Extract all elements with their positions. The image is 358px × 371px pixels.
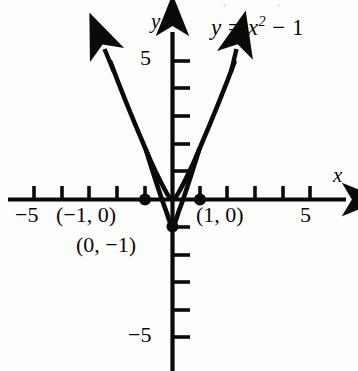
x-tick-label-neg5: −5 — [15, 204, 38, 226]
equation-equals: = — [228, 15, 241, 40]
x-tick-label-5: 5 — [300, 204, 311, 226]
right-branch-arrow — [231, 49, 237, 72]
y-axis-label: y — [151, 11, 160, 32]
equation-constant: 1 — [292, 15, 304, 40]
cropped-text-remnant: ' , ' , — [196, 0, 290, 9]
equation-exponent: 2 — [258, 13, 266, 29]
equation-minus: − — [272, 15, 285, 40]
equation-label: y = x2 − 1 — [211, 14, 304, 39]
point-label-1-0: (1, 0) — [196, 204, 244, 226]
point-label-neg1-0: (−1, 0) — [56, 204, 116, 226]
coordinate-plane — [0, 0, 358, 371]
equation-variable: x — [248, 15, 259, 40]
point-marker-neg1-0 — [139, 194, 151, 206]
y-tick-label-neg5: −5 — [128, 324, 151, 346]
point-marker-0-neg1 — [167, 221, 179, 233]
graph-figure: ' , ' , y x 5 −5 −5 5 (−1, 0) (1, 0) (0,… — [0, 0, 358, 371]
point-label-0-neg1: (0, −1) — [76, 234, 136, 256]
x-axis-label: x — [333, 165, 342, 186]
left-branch-arrow — [105, 49, 115, 72]
equation-lhs: y — [211, 15, 222, 40]
y-tick-label-5: 5 — [140, 47, 151, 69]
